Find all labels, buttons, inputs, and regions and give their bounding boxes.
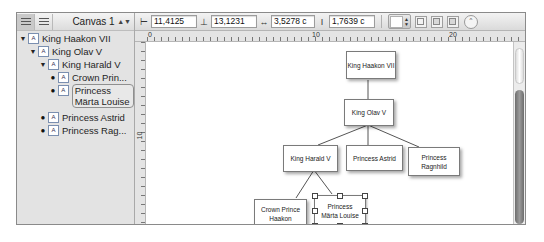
resize-handle[interactable] bbox=[312, 208, 318, 214]
text-shape-icon: A bbox=[58, 72, 69, 83]
disclosure-triangle-icon[interactable]: ▼ bbox=[29, 45, 37, 58]
tree-item-king-olav-v[interactable]: ▼ A King Olav V bbox=[17, 45, 134, 58]
stepper-arrows-icon: ▲▼ bbox=[404, 17, 409, 27]
bullet-icon: ● bbox=[49, 84, 57, 97]
select-arrows-icon: ▲▼ bbox=[117, 18, 131, 25]
toolbar-divider bbox=[381, 15, 382, 28]
node-princess-marta-louise[interactable]: Princess Märta Louise bbox=[314, 195, 366, 225]
bullet-icon: ● bbox=[39, 124, 47, 137]
x-position-icon: ⊢ bbox=[139, 17, 149, 27]
text-shape-icon: A bbox=[48, 112, 59, 123]
resize-handle[interactable] bbox=[362, 193, 368, 199]
node-princess-astrid[interactable]: Princess Astrid bbox=[346, 145, 403, 171]
x-position-field[interactable]: 11,4125 bbox=[151, 15, 197, 28]
node-king-haakon-vii[interactable]: King Haakon VII bbox=[346, 51, 396, 79]
horizontal-ruler: 0 10 20 bbox=[135, 31, 525, 42]
tree-item-princess-ragnhild[interactable]: ● A Princess Rag... bbox=[17, 124, 134, 137]
main-area: ⊢ 11,4125 ⊥ 13,1231 ↔ 3,5278 c I 1,7639 … bbox=[135, 13, 525, 224]
y-position-field[interactable]: 13,1231 bbox=[211, 15, 257, 28]
canvas-select-value: Canvas 1 bbox=[72, 16, 114, 27]
outline-sidebar: Canvas 1 ▲▼ ▼ A King Haakon VII ▼ A King… bbox=[17, 13, 135, 224]
disclosure-triangle-icon[interactable]: ▼ bbox=[39, 58, 47, 71]
color-swatch[interactable] bbox=[390, 16, 403, 28]
resize-handle[interactable] bbox=[362, 223, 368, 225]
shape-style-button-2[interactable] bbox=[431, 16, 443, 28]
fill-color-stepper[interactable]: ▲▼ bbox=[388, 14, 411, 29]
selected-item-label[interactable]: Princess Märta Louise bbox=[72, 84, 134, 108]
list-icon bbox=[39, 18, 49, 26]
bullet-icon: ● bbox=[39, 111, 47, 124]
node-king-olav-v[interactable]: King Olav V bbox=[344, 99, 394, 126]
bullet-icon: ● bbox=[49, 71, 57, 84]
vertical-scrollbar[interactable] bbox=[513, 42, 525, 224]
node-crown-prince-haakon[interactable]: Crown Prince Haakon bbox=[254, 199, 307, 225]
node-princess-ragnhild[interactable]: Princess Ragnhild bbox=[408, 147, 460, 176]
vertical-ruler: 10 bbox=[135, 42, 146, 224]
tree-item-princess-marta-louise[interactable]: ● A Princess Märta Louise bbox=[17, 84, 134, 108]
sidebar-toolbar: Canvas 1 ▲▼ bbox=[17, 13, 134, 31]
text-shape-icon: A bbox=[48, 125, 59, 136]
text-shape-icon: A bbox=[48, 59, 59, 70]
tree-item-king-harald-v[interactable]: ▼ A King Harald V bbox=[17, 58, 134, 71]
resize-handle[interactable] bbox=[337, 223, 343, 225]
app-window: Canvas 1 ▲▼ ▼ A King Haakon VII ▼ A King… bbox=[16, 12, 526, 225]
canvas-select[interactable]: Canvas 1 ▲▼ bbox=[53, 16, 134, 27]
text-shape-icon: A bbox=[58, 85, 69, 96]
scrollbar-thumb[interactable] bbox=[515, 90, 524, 224]
node-king-harald-v[interactable]: King Harald V bbox=[283, 145, 338, 172]
resize-handle[interactable] bbox=[337, 193, 343, 199]
width-field[interactable]: 3,5278 c bbox=[271, 15, 315, 28]
list-view-button[interactable] bbox=[35, 14, 53, 30]
resize-handle[interactable] bbox=[362, 208, 368, 214]
drawing-canvas[interactable]: King Haakon VII King Olav V King Harald … bbox=[146, 42, 513, 224]
height-icon: I bbox=[317, 17, 327, 27]
text-shape-icon: A bbox=[28, 33, 39, 44]
outline-tree: ▼ A King Haakon VII ▼ A King Olav V ▼ A … bbox=[17, 31, 134, 137]
shape-style-button-3[interactable] bbox=[447, 16, 459, 28]
scrollbar-track-cap bbox=[515, 48, 524, 84]
width-icon: ↔ bbox=[259, 17, 269, 27]
text-shape-icon: A bbox=[38, 46, 49, 57]
tree-item-princess-astrid[interactable]: ● A Princess Astrid bbox=[17, 111, 134, 124]
shape-style-button-1[interactable] bbox=[415, 16, 427, 28]
tree-item-king-haakon-vii[interactable]: ▼ A King Haakon VII bbox=[17, 32, 134, 45]
resize-handle[interactable] bbox=[312, 223, 318, 225]
y-position-icon: ⊥ bbox=[199, 17, 209, 27]
hierarchy-icon bbox=[21, 18, 31, 26]
disclosure-triangle-icon[interactable]: ▼ bbox=[19, 32, 27, 45]
resize-handle[interactable] bbox=[312, 193, 318, 199]
height-field[interactable]: 1,7639 c bbox=[329, 15, 375, 28]
rotate-icon[interactable]: ^ bbox=[464, 15, 478, 29]
hierarchy-view-button[interactable] bbox=[17, 14, 35, 30]
tree-item-crown-prince[interactable]: ● A Crown Prin... bbox=[17, 71, 134, 84]
ruler-ticks bbox=[147, 37, 525, 41]
inspector-toolbar: ⊢ 11,4125 ⊥ 13,1231 ↔ 3,5278 c I 1,7639 … bbox=[135, 13, 525, 31]
